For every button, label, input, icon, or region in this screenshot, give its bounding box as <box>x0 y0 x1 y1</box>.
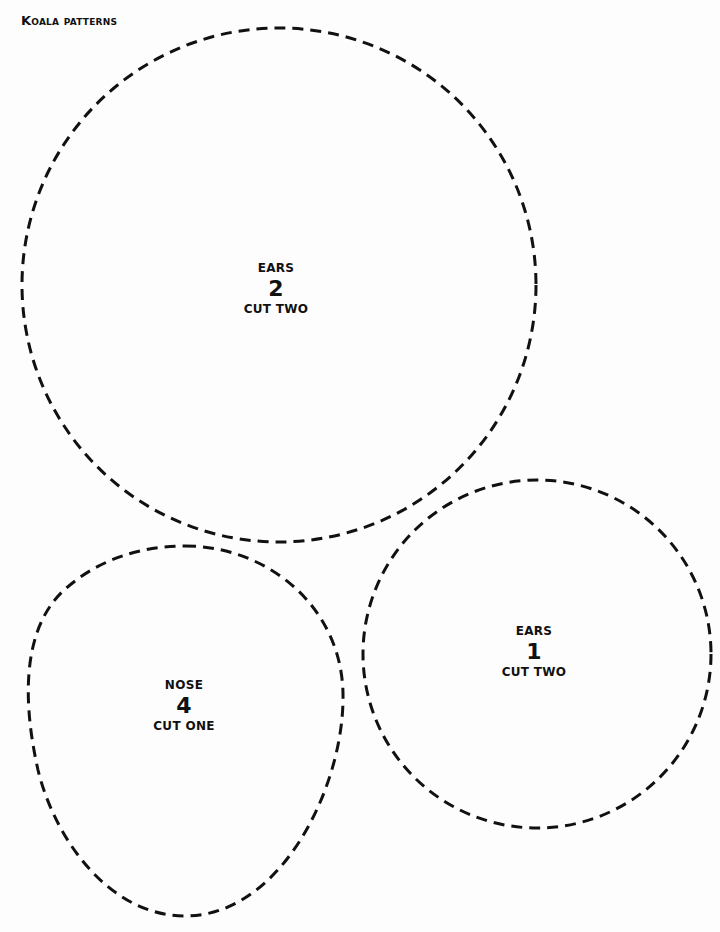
pattern-shapes <box>0 0 720 932</box>
piece-number: 2 <box>244 277 309 301</box>
piece-part-name: NOSE <box>153 678 214 692</box>
piece-cut-instruction: CUT TWO <box>244 302 309 316</box>
nose-label: NOSE 4 CUT ONE <box>153 678 214 733</box>
piece-number: 4 <box>153 694 214 718</box>
ears-large-label: EARS 2 CUT TWO <box>244 261 309 316</box>
piece-part-name: EARS <box>502 624 567 638</box>
piece-cut-instruction: CUT TWO <box>502 665 567 679</box>
ears-small-label: EARS 1 CUT TWO <box>502 624 567 679</box>
piece-number: 1 <box>502 640 567 664</box>
piece-cut-instruction: CUT ONE <box>153 719 214 733</box>
piece-part-name: EARS <box>244 261 309 275</box>
